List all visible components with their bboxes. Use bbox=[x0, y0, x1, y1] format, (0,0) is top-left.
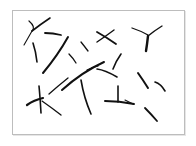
curved-stroke bbox=[45, 33, 61, 35]
image-canvas bbox=[0, 0, 196, 146]
branching-stroke-top-left bbox=[24, 18, 50, 45]
short-vertical-stroke bbox=[33, 43, 37, 62]
stroke-figure bbox=[0, 0, 196, 146]
cross-mark-lower-left bbox=[27, 86, 61, 115]
small-left-stroke bbox=[81, 42, 88, 51]
inverted-t-mark bbox=[105, 86, 134, 104]
center-short-stroke bbox=[113, 54, 121, 69]
center-curved-stroke bbox=[97, 69, 117, 77]
x-mark bbox=[97, 30, 116, 44]
long-diagonal-stroke bbox=[43, 37, 68, 73]
lower-right-stroke bbox=[145, 108, 157, 121]
y-mark bbox=[132, 26, 162, 51]
small-diagonal-stroke bbox=[69, 54, 76, 63]
lower-vertical-curve bbox=[81, 80, 91, 114]
right-diagonal-stroke bbox=[138, 73, 148, 88]
right-curved-stroke bbox=[155, 82, 165, 91]
